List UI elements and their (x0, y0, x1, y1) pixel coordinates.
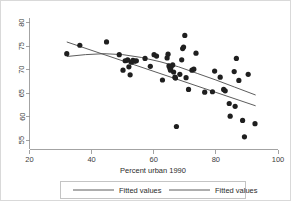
scatter-marker (182, 33, 187, 38)
scatter-marker (223, 88, 228, 93)
scatter-marker (218, 75, 223, 80)
x-tick-label: 100 (272, 155, 285, 164)
scatter-marker (183, 75, 188, 80)
scatter-plot: 556065707580 20406080100 Percent urban 1… (1, 1, 291, 201)
scatter-marker (232, 69, 237, 74)
scatter-marker (193, 51, 198, 56)
scatter-marker (240, 118, 245, 123)
x-tick-label: 40 (87, 155, 95, 164)
scatter-marker (177, 72, 182, 77)
scatter-marker (173, 76, 178, 81)
y-tick-label: 80 (18, 19, 27, 27)
scatter-marker (64, 51, 69, 56)
scatter-marker (246, 72, 251, 77)
x-axis-ticks: 20406080100 (25, 150, 284, 165)
scatter-marker (148, 64, 153, 69)
scatter-marker (228, 114, 233, 119)
scatter-marker (212, 68, 217, 73)
scatter-marker (154, 53, 159, 58)
y-tick-label: 60 (18, 112, 27, 120)
scatter-marker (171, 69, 176, 74)
scatter-marker (120, 68, 125, 73)
scatter-marker (170, 62, 175, 67)
plot-axes (30, 18, 279, 150)
fitted-line-linear (67, 42, 256, 106)
legend-label: Fitted values (119, 186, 162, 195)
y-tick-label: 65 (18, 89, 27, 97)
fitted-lines-group (67, 42, 256, 106)
scatter-marker (128, 72, 133, 77)
y-tick-label: 70 (18, 65, 27, 73)
x-tick-label: 20 (25, 155, 33, 164)
legend-label: Fitted values (215, 186, 258, 195)
scatter-marker (242, 134, 247, 139)
scatter-marker (142, 56, 147, 61)
scatter-marker (234, 56, 239, 61)
scatter-marker (227, 101, 232, 106)
x-axis-title: Percent urban 1990 (120, 166, 186, 175)
scatter-marker (174, 124, 179, 129)
y-tick-label: 55 (18, 136, 27, 144)
scatter-marker (186, 87, 191, 92)
scatter-marker (236, 78, 241, 83)
scatter-marker (252, 121, 257, 126)
scatter-marker (77, 43, 82, 48)
scatter-marker (191, 67, 196, 72)
x-tick-label: 80 (212, 155, 220, 164)
chart-figure: 556065707580 20406080100 Percent urban 1… (0, 0, 291, 201)
scatter-marker (181, 45, 186, 50)
y-tick-label: 75 (18, 42, 27, 50)
scatter-marker (126, 64, 131, 69)
scatter-marker (117, 52, 122, 57)
x-tick-label: 60 (150, 155, 158, 164)
y-axis-ticks: 556065707580 (18, 19, 30, 145)
scatter-marker (134, 58, 139, 63)
scatter-points-group (64, 33, 257, 140)
scatter-marker (165, 52, 170, 57)
scatter-marker (179, 57, 184, 62)
chart-legend: Fitted valuesFitted values (61, 182, 258, 199)
scatter-marker (202, 90, 207, 95)
scatter-marker (160, 77, 165, 82)
scatter-marker (210, 89, 215, 94)
scatter-marker (104, 39, 109, 44)
scatter-marker (233, 104, 238, 109)
